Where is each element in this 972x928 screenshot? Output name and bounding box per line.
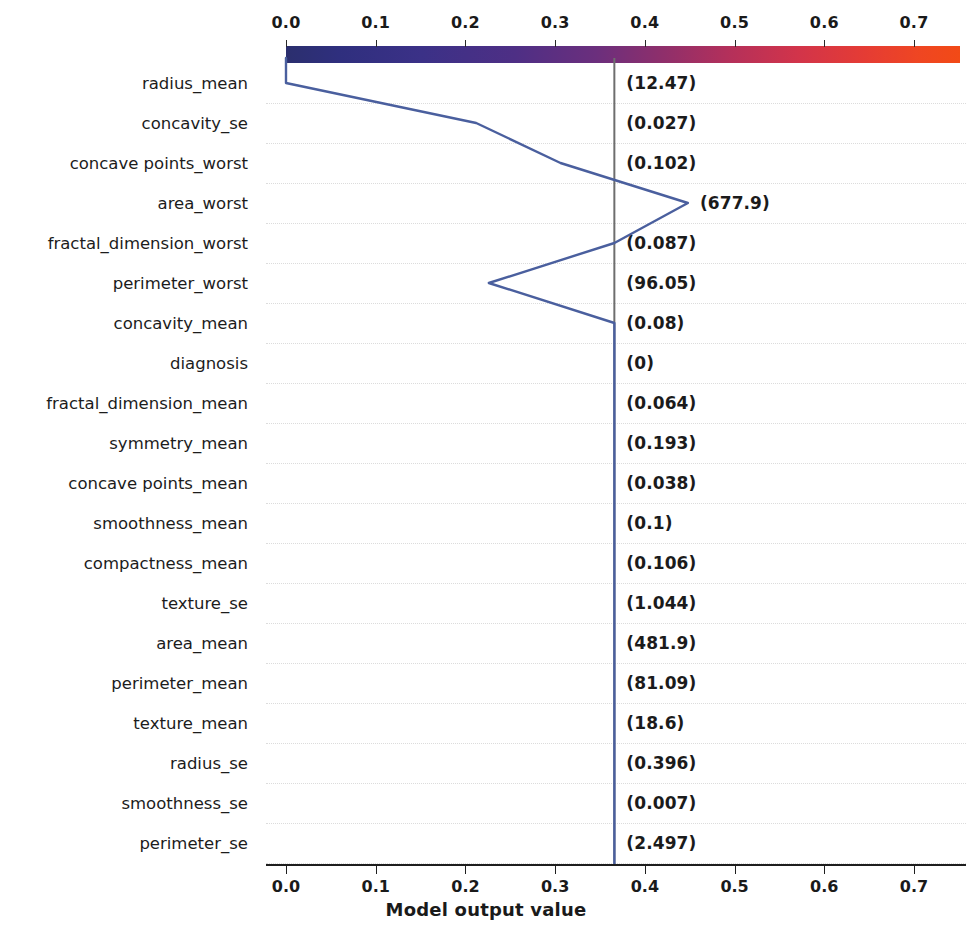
x-axis-tick-label: 0.4	[631, 877, 659, 896]
x-axis-tick	[465, 866, 466, 874]
x-axis-tick-label: 0.0	[272, 877, 300, 896]
x-axis-tick	[824, 866, 825, 874]
x-axis-tick-label: 0.1	[362, 877, 390, 896]
x-axis-tick-label: 0.3	[541, 877, 569, 896]
x-axis-tick-label: 0.2	[451, 877, 479, 896]
x-axis-tick	[735, 866, 736, 874]
x-axis-tick-label: 0.6	[810, 877, 838, 896]
decision-path-line	[286, 58, 688, 864]
plot-lines	[0, 0, 972, 928]
x-axis-title: Model output value	[0, 899, 972, 920]
x-axis-tick-label: 0.5	[720, 877, 748, 896]
x-axis-tick	[376, 866, 377, 874]
shap-decision-plot: 0.00.10.20.30.40.50.60.7 radius_mean(12.…	[0, 0, 972, 928]
x-axis-line	[266, 864, 966, 866]
x-axis-tick	[914, 866, 915, 874]
x-axis-tick-label: 0.7	[900, 877, 928, 896]
x-axis-tick	[286, 866, 287, 874]
x-axis-tick	[555, 866, 556, 874]
x-axis-tick	[645, 866, 646, 874]
